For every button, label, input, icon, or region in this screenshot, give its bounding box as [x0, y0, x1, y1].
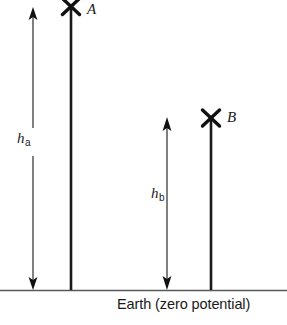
height-a-symbol: h [17, 130, 25, 146]
height-a-label: ha [17, 131, 30, 146]
height-b-subscript: b [159, 192, 165, 203]
point-b-label: B [227, 110, 236, 125]
height-b-symbol: h [151, 185, 159, 201]
height-b-label: hb [151, 186, 164, 201]
height-a-subscript: a [25, 137, 31, 148]
diagram-canvas [0, 0, 287, 325]
physics-diagram: A B ha hb Earth (zero potential) [0, 0, 287, 325]
point-a-label: A [87, 2, 96, 17]
earth-caption: Earth (zero potential) [117, 297, 250, 312]
